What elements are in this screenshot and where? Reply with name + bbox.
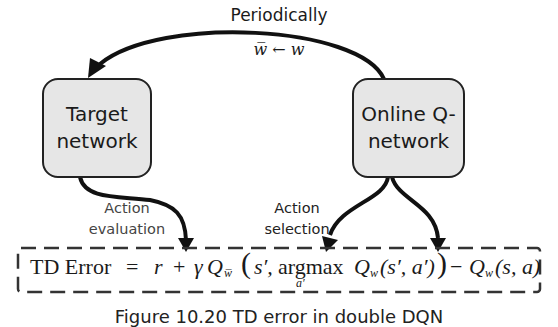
target-line2: network: [56, 128, 137, 155]
formula-q-sa: Q: [469, 254, 485, 280]
formula-minus: −: [450, 254, 462, 280]
formula-lhs: TD Error: [30, 254, 111, 280]
formula-q-online-sub: w: [370, 266, 378, 281]
formula-q-target-sub: w̅: [224, 266, 232, 281]
formula-q-online: Q: [354, 254, 370, 280]
online-line2: network: [361, 128, 455, 155]
action-selection-arrow: [330, 177, 388, 235]
evaluation-line1: Action: [82, 198, 172, 219]
formula-q-sa-sub: w: [485, 266, 493, 281]
formula-args-online: (s′, a′): [380, 254, 435, 280]
evaluation-line2: evaluation: [82, 219, 172, 240]
formula-r: r: [154, 254, 163, 280]
formula-close-paren: ): [437, 246, 447, 280]
formula-gamma: γ: [194, 254, 203, 280]
selection-line2: selection: [257, 219, 337, 240]
current-q-arrow: [392, 177, 438, 238]
figure-caption: Figure 10.20 TD error in double DQN: [0, 306, 558, 327]
formula-open-paren: (: [241, 246, 251, 280]
formula-args-sa: (s, a): [495, 254, 540, 280]
action-evaluation-label: Action evaluation: [82, 198, 172, 240]
periodically-label: Periodically: [199, 5, 359, 25]
formula-argmax-sub: a′: [296, 276, 305, 291]
weight-copy-rule: w̅ ← w: [199, 40, 359, 59]
formula-eq: =: [126, 254, 138, 280]
selection-line1: Action: [257, 198, 337, 219]
formula-s-prime: s′,: [254, 254, 273, 280]
action-selection-label: Action selection: [257, 198, 337, 240]
online-line1: Online Q-: [361, 101, 455, 128]
online-network-node: Online Q-network: [352, 78, 465, 178]
formula-q-target: Q: [207, 254, 223, 280]
target-network-node: Targetnetwork: [42, 78, 152, 178]
target-line1: Target: [56, 101, 137, 128]
formula-plus: +: [173, 254, 185, 280]
td-error-formula: TD Error = r + γ Q w̅ ( s′, argmax a′ Q …: [14, 248, 544, 290]
formula-argmax: argmax: [278, 254, 344, 280]
